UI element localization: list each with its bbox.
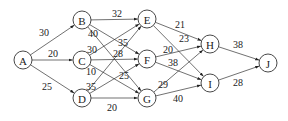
edge-weight-label: 20 [107,102,117,113]
arrow-icon [91,19,138,20]
node-label: E [144,14,151,26]
edge-a-d [31,65,74,93]
node-label: F [144,54,150,66]
node-label: I [208,78,212,90]
node-b: B [73,11,91,29]
node-label: J [266,58,271,70]
node-label: C [78,55,85,67]
edge-weight-label: 38 [233,39,243,50]
node-label: B [78,15,85,27]
edge-weight-label: 20 [163,44,173,55]
edge-weight-label: 28 [233,77,243,88]
node-label: D [78,93,86,105]
edge-weight-label: 40 [88,28,98,39]
edge-weight-label: 25 [42,81,52,92]
edge-weight-label: 28 [113,48,123,59]
node-c: C [73,51,91,69]
edge-weight-label: 30 [87,44,97,55]
edge-weight-label: 29 [158,79,168,90]
node-g: G [138,89,156,107]
node-label: G [143,93,151,105]
node-d: D [73,89,91,107]
edge-weight-label: 40 [173,93,183,104]
node-j: J [259,54,277,72]
node-a: A [14,51,32,69]
edge-weight-label: 35 [118,37,128,48]
edge-weight-label: 35 [86,81,96,92]
edge-weight-label: 30 [39,27,49,38]
edge-weight-label: 32 [112,8,122,19]
edge-b-e [91,19,138,20]
nodes-layer: ABCDEFGHIJ [14,10,277,107]
node-e: E [138,10,156,28]
node-label: H [206,39,214,51]
edge-weight-label: 21 [175,19,185,30]
node-h: H [201,35,219,53]
node-i: I [201,74,219,92]
arrow-icon [31,65,74,93]
edge-weight-label: 23 [179,33,189,44]
edge-weight-label: 25 [119,70,129,81]
node-f: F [138,50,156,68]
node-label: A [19,55,27,67]
edge-weight-label: 38 [168,57,178,68]
network-diagram: 3020253235403028103525202123203829403828… [0,0,288,121]
edge-weight-label: 20 [48,48,58,59]
